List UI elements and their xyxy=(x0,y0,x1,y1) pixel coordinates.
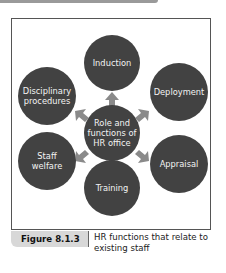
node-label: Staff welfare xyxy=(27,151,67,171)
diagram-frame: Induction Deployment Appraisal Training … xyxy=(11,18,211,230)
center-node: Role and functions of HR office xyxy=(84,105,140,161)
node-appraisal: Appraisal xyxy=(150,135,208,193)
node-training: Training xyxy=(84,160,140,216)
node-label: Deployment xyxy=(154,87,205,97)
figure-label: Figure 8.1.3 xyxy=(11,231,89,247)
node-label: Induction xyxy=(93,58,132,68)
top-decorative-bar xyxy=(0,0,158,3)
node-induction: Induction xyxy=(84,35,140,91)
node-label: Disciplinary procedures xyxy=(20,86,74,106)
arrow-down-right-icon xyxy=(135,150,149,163)
arrow-down-left-icon xyxy=(75,150,89,163)
node-staff-welfare: Staff welfare xyxy=(18,132,76,190)
node-label: Appraisal xyxy=(160,159,199,169)
node-label: Training xyxy=(96,183,129,193)
figure-caption: HR functions that relate to existing sta… xyxy=(94,232,222,254)
node-deployment: Deployment xyxy=(150,63,208,121)
node-disciplinary-procedures: Disciplinary procedures xyxy=(18,67,76,125)
center-label: Role and functions of HR office xyxy=(86,118,138,148)
